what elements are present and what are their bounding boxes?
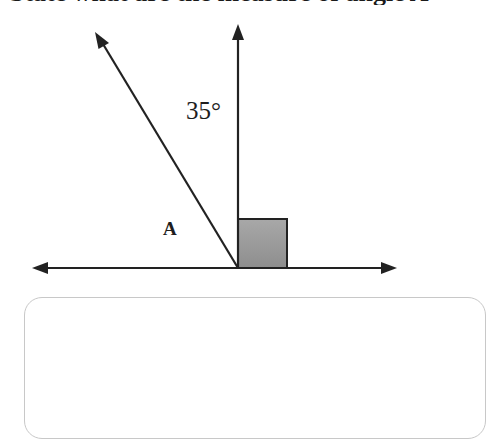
angle-label-a: A: [163, 218, 177, 240]
angle-label-35: 35°: [186, 97, 221, 125]
horizontal-line: [32, 262, 397, 274]
angle-diagram: [0, 0, 448, 290]
answer-input-box[interactable]: [24, 297, 486, 439]
up-arrowhead-icon: [232, 24, 244, 40]
left-arrowhead-icon: [32, 262, 48, 274]
diagonal-arrowhead-icon: [95, 32, 109, 49]
right-arrowhead-icon: [381, 262, 397, 274]
right-angle-marker: [238, 219, 287, 268]
